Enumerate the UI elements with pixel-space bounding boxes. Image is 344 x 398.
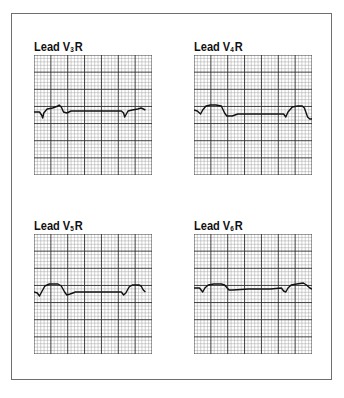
lead-label-subscript: 4 (230, 46, 234, 53)
lead-label: Lead V3R (34, 40, 83, 54)
ecg-grid (194, 234, 312, 354)
lead-label-prefix: Lead V (34, 219, 70, 233)
lead-label-suffix: R (75, 219, 83, 233)
lead-label: Lead V6R (194, 219, 243, 233)
lead-label: Lead V4R (194, 40, 243, 54)
lead-label-prefix: Lead V (194, 40, 230, 54)
lead-label-suffix: R (235, 219, 243, 233)
lead-label-subscript: 6 (230, 225, 234, 232)
lead-label-prefix: Lead V (34, 40, 70, 54)
lead-label-subscript: 5 (70, 225, 74, 232)
ecg-grid (34, 55, 152, 175)
lead-label: Lead V5R (34, 219, 83, 233)
ecg-trace (194, 283, 312, 292)
ecg-grid (194, 55, 312, 175)
lead-label-prefix: Lead V (194, 219, 230, 233)
lead-label-suffix: R (235, 40, 243, 54)
lead-label-suffix: R (75, 40, 83, 54)
lead-label-subscript: 3 (70, 46, 74, 53)
ecg-grid (34, 234, 152, 354)
